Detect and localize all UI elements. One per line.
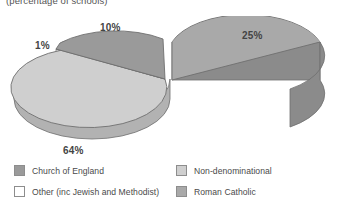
legend-item-label: Other (inc Jewish and Methodist)	[32, 187, 159, 197]
data-label-non-denominational: 64%	[63, 145, 84, 156]
legend-swatch-icon	[14, 165, 25, 176]
legend-item-label: Non-denominational	[194, 166, 272, 176]
legend-item-roman-catholic: Roman Catholic	[176, 181, 328, 202]
pie-stage: 1% 10% 25% 64%	[0, 16, 338, 156]
data-label-roman-catholic: 25%	[242, 30, 263, 41]
chart-subtitle: (percentage of schools)	[6, 0, 108, 6]
legend-swatch-icon	[176, 186, 187, 197]
pie-chart-figure: (percentage of schools) 1	[0, 0, 338, 211]
legend-item-other: Other (inc Jewish and Methodist)	[14, 181, 166, 202]
legend-swatch-icon	[176, 165, 187, 176]
legend-item-non-denominational: Non-denominational	[176, 160, 328, 181]
legend-item-label: Church of England	[32, 166, 104, 176]
chart-legend: Church of England Non-denominational Oth…	[14, 160, 328, 202]
data-label-other: 1%	[35, 40, 50, 51]
data-label-church-of-england: 10%	[100, 22, 121, 33]
legend-swatch-icon	[14, 186, 25, 197]
legend-item-church-of-england: Church of England	[14, 160, 166, 181]
pie-svg	[0, 16, 338, 156]
legend-item-label: Roman Catholic	[194, 187, 256, 197]
